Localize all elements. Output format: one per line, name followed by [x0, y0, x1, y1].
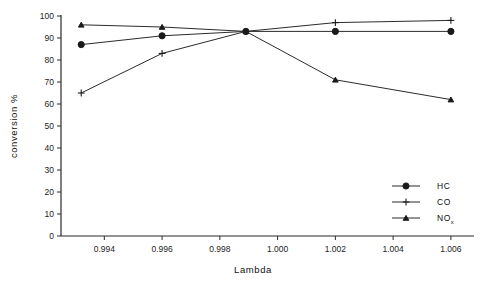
series-line-nox: [81, 25, 451, 100]
legend-marker-no: [403, 215, 409, 220]
y-tick-label: 30: [45, 165, 55, 175]
data-point-nox: [159, 24, 165, 29]
data-point-hc: [332, 28, 338, 34]
data-point-hc: [159, 33, 165, 39]
y-tick-label: 10: [45, 209, 55, 219]
legend-label-co: CO: [437, 197, 451, 207]
line-chart: 01020304050607080901000.9940.9960.9981.0…: [0, 0, 491, 287]
y-tick-label: 50: [45, 121, 55, 131]
data-point-nox: [333, 77, 339, 82]
y-tick-label: 100: [40, 11, 54, 21]
legend-marker-hc: [403, 183, 409, 189]
y-tick-label: 80: [45, 55, 55, 65]
x-tick-label: 0.998: [209, 244, 231, 254]
y-axis-title: conversion %: [8, 94, 19, 158]
y-tick-label: 70: [45, 77, 55, 87]
chart-container: 01020304050607080901000.9940.9960.9981.0…: [0, 0, 491, 287]
x-tick-label: 1.002: [325, 244, 347, 254]
data-point-nox: [78, 22, 84, 27]
y-tick-label: 0: [49, 231, 54, 241]
y-tick-label: 20: [45, 187, 55, 197]
y-tick-label: 60: [45, 99, 55, 109]
x-tick-label: 0.994: [94, 244, 116, 254]
data-point-hc: [448, 28, 454, 34]
x-tick-label: 0.996: [151, 244, 173, 254]
legend-label-no: NOx: [437, 213, 454, 225]
x-tick-label: 1.004: [382, 244, 404, 254]
y-tick-label: 90: [45, 33, 55, 43]
data-point-nox: [448, 97, 454, 102]
x-tick-label: 1.006: [440, 244, 462, 254]
legend-label-hc: HC: [437, 181, 450, 191]
legend-label-subscript: x: [451, 219, 455, 225]
y-tick-label: 40: [45, 143, 55, 153]
x-axis-title: Lambda: [234, 264, 272, 275]
x-tick-label: 1.000: [267, 244, 289, 254]
data-point-hc: [78, 42, 84, 48]
